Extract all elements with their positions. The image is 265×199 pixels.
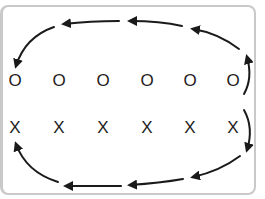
x-mark: X <box>227 118 238 137</box>
bottom-arrow-right-down <box>244 110 250 150</box>
x-mark: X <box>9 118 20 137</box>
o-row: O O O O O O <box>8 71 239 90</box>
o-mark: O <box>96 71 109 90</box>
top-arrows <box>16 21 249 94</box>
x-mark: X <box>184 118 195 137</box>
o-mark: O <box>8 71 21 90</box>
bottom-arrow-2 <box>130 179 183 185</box>
top-arrow-2 <box>130 21 182 26</box>
top-arrow-left-down <box>16 27 54 66</box>
top-arrow-3 <box>64 21 119 24</box>
bottom-arrow-left-up <box>16 144 58 182</box>
rotation-diagram: O O O O O O X X X X X X <box>0 0 265 199</box>
top-arrow-right-up <box>244 57 249 94</box>
x-mark: X <box>97 118 108 137</box>
x-row: X X X X X X <box>9 118 238 137</box>
o-mark: O <box>140 71 153 90</box>
top-arrow-1 <box>193 29 239 49</box>
x-mark: X <box>141 118 152 137</box>
o-mark: O <box>183 71 196 90</box>
x-mark: X <box>53 118 64 137</box>
bottom-arrows <box>16 110 250 186</box>
bottom-arrow-1 <box>193 156 240 177</box>
o-mark: O <box>52 71 65 90</box>
o-mark: O <box>226 71 239 90</box>
